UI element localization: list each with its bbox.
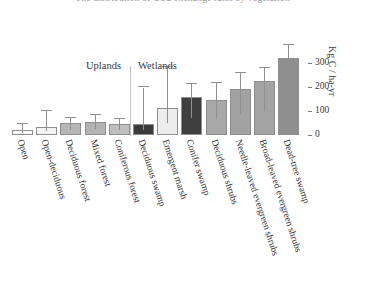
error-bar-line	[119, 119, 120, 130]
y-axis-tick-mark	[308, 63, 312, 64]
error-bar-cap	[41, 110, 52, 111]
group-label-wetlands: Wetlands	[138, 60, 177, 71]
error-bar-line	[264, 68, 265, 111]
x-axis-labels: OpenOpen-deciduousDeciduous forestMixed …	[8, 138, 318, 298]
x-axis-label: Emergent marsh	[161, 138, 190, 200]
error-bar-line	[95, 115, 96, 129]
error-bar-cap	[65, 117, 76, 118]
x-axis-label: Open-deciduous	[40, 138, 69, 200]
bar-series	[8, 40, 308, 135]
figure-container: The distribution of CO2 exchange rates b…	[0, 0, 365, 301]
error-bar-line	[46, 111, 47, 131]
error-bar-line	[191, 84, 192, 118]
error-bar-cap	[114, 118, 125, 119]
y-axis-tick-mark	[308, 111, 312, 112]
error-bar-line	[216, 83, 217, 119]
x-axis-label: Conifer swamp	[185, 138, 213, 197]
error-bar-cap	[138, 86, 149, 87]
group-label-uplands: Uplands	[86, 60, 121, 71]
x-axis-label: Dead-tree swamp	[282, 138, 312, 205]
x-axis-label: Deciduous forest	[64, 138, 93, 203]
error-bar-cap	[90, 114, 101, 115]
error-bar-cap	[211, 82, 222, 83]
error-bar-line	[22, 124, 23, 133]
error-bar-line	[288, 45, 289, 100]
figure-title-text: The distribution of CO2 exchange rates b…	[0, 0, 365, 4]
x-axis-label: Needle-leaved evergreen shrubs	[233, 138, 280, 257]
error-bar-cap	[235, 72, 246, 73]
x-axis-label: Open	[15, 138, 31, 161]
x-axis-label: Mixed forest	[88, 138, 113, 188]
group-divider-line	[130, 66, 131, 136]
y-axis-title: Kg C / ha-yr	[327, 46, 338, 96]
plot-area	[8, 40, 308, 135]
error-bar-cap	[259, 67, 270, 68]
error-bar-line	[240, 73, 241, 115]
figure-title-clipped: The distribution of CO2 exchange rates b…	[0, 0, 365, 5]
error-bar-cap	[283, 44, 294, 45]
y-axis-tick-mark	[308, 87, 312, 88]
error-bar-cap	[17, 123, 28, 124]
error-bar-cap	[186, 83, 197, 84]
error-bar-line	[70, 118, 71, 130]
error-bar-line	[143, 88, 144, 131]
y-axis-tick-label: 100	[315, 105, 329, 115]
error-bar-line	[167, 67, 168, 123]
y-axis-tick-mark	[308, 135, 312, 136]
